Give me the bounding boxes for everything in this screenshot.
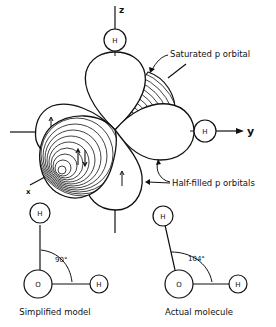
y-arrowhead (236, 128, 244, 134)
saturated-label: Saturated p orbital (170, 49, 250, 59)
half-filled-leader-1 (157, 162, 170, 182)
half-filled-leader-2 (148, 182, 170, 183)
svg-text:H: H (37, 210, 42, 218)
x-label: x (26, 188, 31, 196)
hydrogen-top: H (104, 29, 126, 51)
y-label: y (247, 125, 254, 138)
half-filled-label: Half-filled p orbitals (172, 178, 255, 188)
water-orbital-diagram: z y x H H (0, 0, 276, 327)
svg-text:O: O (176, 281, 182, 289)
svg-text:H: H (112, 37, 117, 45)
z-label: z (119, 5, 124, 15)
simplified-model: H O H 90° Simplified model (19, 203, 108, 317)
angle-90: 90° (55, 256, 67, 264)
svg-text:O: O (35, 281, 41, 289)
actual-caption: Actual molecule (165, 307, 233, 317)
saturated-leader (152, 55, 168, 70)
simplified-caption: Simplified model (19, 307, 90, 317)
diagonal-axis (168, 64, 186, 78)
hydrogen-right: H (194, 120, 216, 142)
svg-text:H: H (160, 213, 165, 221)
svg-text:H: H (202, 128, 207, 136)
svg-text:H: H (96, 281, 101, 289)
actual-molecule: H O H 104° Actual molecule (153, 206, 247, 317)
angle-104: 104° (188, 255, 205, 263)
svg-text:H: H (235, 281, 240, 289)
